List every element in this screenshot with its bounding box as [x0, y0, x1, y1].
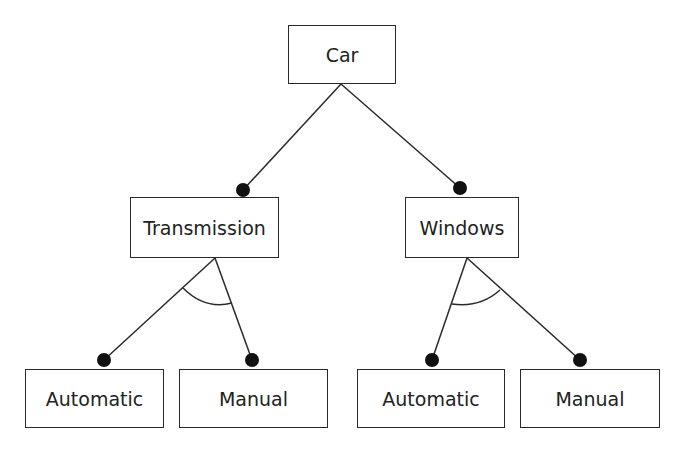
node-transmission: Transmission: [130, 197, 279, 258]
node-transmission-automatic: Automatic: [25, 369, 164, 428]
mandatory-dot-icon: [97, 353, 111, 367]
node-transmission-manual: Manual: [179, 369, 328, 428]
edge-transmission-trans_manual: [215, 258, 252, 360]
node-label-car: Car: [326, 44, 359, 66]
node-label-transmission: Transmission: [143, 217, 266, 239]
mandatory-dot-icon: [425, 353, 439, 367]
node-windows: Windows: [405, 197, 519, 258]
alternative-group-arc-windows: [452, 290, 500, 305]
node-label-windows-automatic: Automatic: [382, 388, 479, 410]
node-car: Car: [288, 25, 396, 84]
node-windows-manual: Manual: [520, 369, 660, 428]
node-label-transmission-automatic: Automatic: [46, 388, 143, 410]
mandatory-dot-icon: [453, 181, 467, 195]
mandatory-dot-icon: [245, 353, 259, 367]
edge-car-windows: [341, 84, 460, 188]
mandatory-dot-icon: [236, 183, 250, 197]
edge-windows-win_automatic: [432, 258, 467, 360]
mandatory-dot-icon: [573, 353, 587, 367]
edge-windows-win_manual: [467, 258, 580, 360]
edge-car-transmission: [243, 84, 341, 190]
node-label-windows-manual: Manual: [555, 388, 624, 410]
node-label-windows: Windows: [420, 217, 505, 239]
edge-transmission-trans_automatic: [104, 258, 215, 360]
node-windows-automatic: Automatic: [357, 369, 505, 428]
alternative-group-arc-transmission: [183, 288, 232, 305]
node-label-transmission-manual: Manual: [219, 388, 288, 410]
